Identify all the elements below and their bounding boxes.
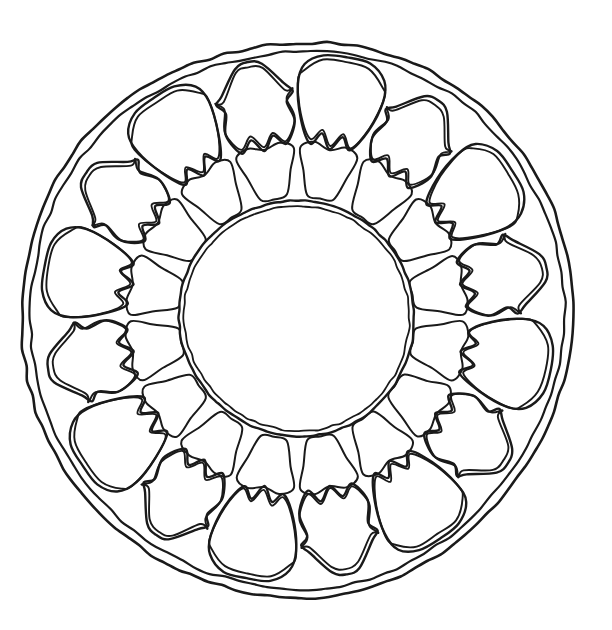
mandala-figure	[0, 0, 612, 630]
drawing-canvas	[0, 0, 612, 630]
